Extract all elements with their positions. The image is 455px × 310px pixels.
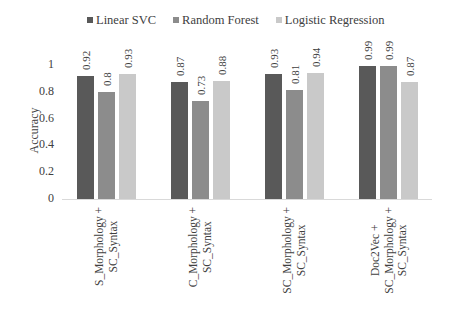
data-label: 0.87 (174, 57, 186, 76)
x-category-label: Doc2Vec +SC_Morphology +SC_Syntax (368, 207, 409, 294)
x-category-label-line: SC_Syntax (395, 207, 409, 294)
data-label: 0.99 (383, 41, 395, 60)
legend-item-linear-svc: Linear SVC (87, 13, 156, 28)
data-label: 0.94 (310, 48, 322, 67)
bar-random-forest (192, 101, 209, 199)
y-tick-label: 0.4 (30, 137, 54, 152)
data-label: 0.87 (404, 57, 416, 76)
x-category-label: SC_Morphology +SC_Syntax (280, 207, 307, 294)
x-category-label-line: Doc2Vec + (368, 207, 382, 294)
bar-logistic-regression (213, 81, 230, 199)
legend-swatch-icon (276, 17, 282, 23)
bar-logistic-regression (119, 74, 136, 199)
legend-swatch-icon (87, 17, 93, 23)
bar-linear-svc (265, 74, 282, 199)
data-label: 0.88 (216, 56, 228, 75)
legend-item-random-forest: Random Forest (173, 13, 259, 28)
x-category-label-line: C_Morphology + (187, 207, 201, 287)
x-category-label: S_Morphology +SC_Syntax (93, 207, 120, 286)
x-category-label-line: SC_Syntax (294, 207, 308, 294)
legend-label: Linear SVC (96, 13, 156, 28)
x-category-label-line: SC_Morphology + (280, 207, 294, 294)
legend-swatch-icon (173, 17, 179, 23)
bar-linear-svc (359, 66, 376, 199)
data-label: 0.92 (80, 50, 92, 69)
data-label: 0.99 (362, 41, 374, 60)
data-label: 0.93 (268, 49, 280, 68)
bar-random-forest (98, 92, 115, 199)
y-tick-label: 1 (30, 57, 54, 72)
data-label: 0.93 (122, 49, 134, 68)
legend-label: Logistic Regression (285, 13, 385, 28)
x-category-label-line: S_Morphology + (93, 207, 107, 286)
x-category-label: C_Morphology +SC_Syntax (187, 207, 214, 287)
data-label: 0.81 (289, 65, 301, 84)
y-tick-label: 0.2 (30, 164, 54, 179)
y-tick-label: 0.6 (30, 111, 54, 126)
bar-linear-svc (77, 76, 94, 199)
bar-logistic-regression (401, 82, 418, 199)
x-category-label-line: SC_Syntax (200, 207, 214, 287)
x-category-label-line: SC_Syntax (106, 207, 120, 286)
bar-random-forest (286, 90, 303, 199)
accuracy-bar-chart: Linear SVC Random Forest Logistic Regres… (0, 0, 455, 310)
chart-legend: Linear SVC Random Forest Logistic Regres… (87, 11, 401, 29)
y-tick-label: 0.8 (30, 84, 54, 99)
legend-label: Random Forest (182, 13, 259, 28)
bar-logistic-regression (307, 73, 324, 199)
x-axis-line (62, 199, 432, 200)
bar-random-forest (380, 66, 397, 199)
bar-linear-svc (171, 82, 188, 199)
data-label: 0.8 (101, 72, 113, 86)
y-tick-label: 0 (30, 191, 54, 206)
x-category-label-line: SC_Morphology + (382, 207, 396, 294)
legend-item-logistic-regression: Logistic Regression (276, 13, 385, 28)
data-label: 0.73 (195, 76, 207, 95)
